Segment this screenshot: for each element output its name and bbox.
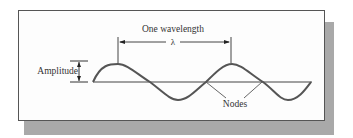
- node-leader-line-2: [244, 82, 262, 98]
- arrowhead-left-icon: [119, 40, 125, 44]
- wave-diagram: One wavelength λ Amplitude Nodes: [0, 0, 353, 138]
- arrowhead-right-icon: [224, 40, 230, 44]
- wavelength-title: One wavelength: [142, 24, 204, 34]
- amplitude-arrowhead-bottom-icon: [77, 76, 81, 81]
- wavelength-symbol: λ: [171, 37, 176, 47]
- node-leader-line-1: [206, 82, 226, 98]
- amplitude-label: Amplitude: [37, 66, 78, 76]
- nodes-label: Nodes: [223, 99, 248, 109]
